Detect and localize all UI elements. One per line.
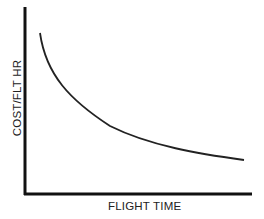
y-axis-label: COST/FLT HR — [11, 43, 23, 153]
chart-canvas — [0, 0, 264, 219]
x-axis-label: FLIGHT TIME — [108, 200, 181, 212]
cost-curve — [40, 33, 244, 160]
